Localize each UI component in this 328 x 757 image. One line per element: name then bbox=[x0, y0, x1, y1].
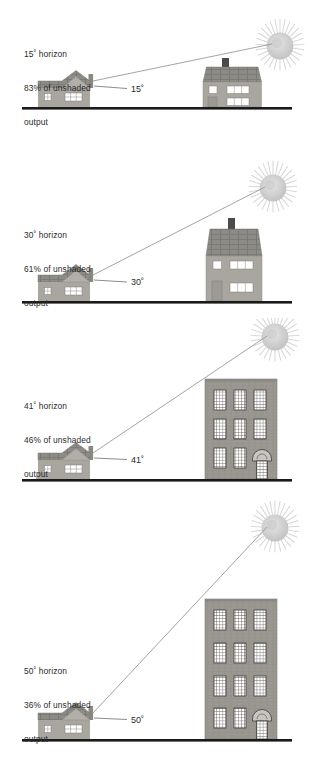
sun-icon bbox=[249, 161, 297, 212]
sun-icon bbox=[251, 318, 299, 361]
angle-leader-41 bbox=[94, 458, 127, 460]
window bbox=[234, 448, 246, 468]
window bbox=[214, 610, 226, 630]
caption-line-2: 36% of unshaded bbox=[24, 700, 91, 711]
caption-line-1: 50˚ horizon bbox=[24, 666, 91, 677]
caption-line-3: output bbox=[24, 298, 91, 309]
four-story-brick-building bbox=[205, 599, 277, 739]
angle-label-41: 41˚ bbox=[131, 455, 144, 465]
chimney bbox=[228, 218, 235, 230]
window bbox=[254, 643, 266, 663]
angle-leader-15 bbox=[94, 86, 127, 89]
caption-15: 15˚ horizon 83% of unshaded output bbox=[24, 27, 91, 150]
window-lower-triple bbox=[227, 98, 249, 106]
caption-line-3: output bbox=[24, 734, 91, 745]
two-story-house-right bbox=[203, 58, 262, 107]
angle-label-15: 15˚ bbox=[131, 84, 144, 94]
roof bbox=[203, 67, 262, 82]
panel-50-degree: 50˚ bbox=[0, 495, 328, 757]
window bbox=[254, 610, 266, 630]
window bbox=[214, 419, 226, 439]
window bbox=[234, 643, 246, 663]
panel-41-degree: 41˚ bbox=[0, 318, 328, 495]
tall-two-story-house-right bbox=[206, 218, 262, 301]
window bbox=[234, 390, 246, 410]
angle-leader-50 bbox=[94, 718, 127, 720]
window bbox=[214, 676, 226, 696]
caption-line-1: 30˚ horizon bbox=[24, 230, 91, 241]
angle-leader-30 bbox=[94, 280, 127, 282]
window-lower-triple bbox=[230, 283, 253, 292]
door bbox=[257, 721, 268, 739]
cornice bbox=[205, 599, 277, 602]
panel-30-degree: 30˚ 30˚ bbox=[0, 155, 328, 318]
window bbox=[214, 643, 226, 663]
caption-30: 30˚ horizon 61% of unshaded output bbox=[24, 208, 91, 331]
angle-label-50: 50˚ bbox=[131, 715, 144, 725]
window-upper-left bbox=[213, 261, 222, 269]
window-upper-left bbox=[209, 86, 217, 94]
window-row-floor-3 bbox=[214, 390, 266, 410]
sun-icon bbox=[251, 501, 299, 552]
window bbox=[234, 610, 246, 630]
door bbox=[257, 461, 268, 479]
three-story-brick-building bbox=[205, 379, 277, 479]
caption-line-2: 83% of unshaded bbox=[24, 83, 91, 94]
window bbox=[254, 390, 266, 410]
caption-41: 41˚ horizon 46% of unshaded output bbox=[24, 379, 91, 502]
window bbox=[214, 448, 226, 468]
window bbox=[234, 708, 246, 728]
window bbox=[234, 419, 246, 439]
cornice bbox=[205, 379, 277, 382]
caption-line-1: 15˚ horizon bbox=[24, 49, 91, 60]
panel-15-degree: 15˚ bbox=[0, 0, 328, 155]
window bbox=[254, 676, 266, 696]
window-row-floor-4 bbox=[214, 610, 266, 630]
caption-line-1: 41˚ horizon bbox=[24, 401, 91, 412]
caption-50: 50˚ horizon 36% of unshaded output bbox=[24, 644, 91, 757]
caption-line-2: 46% of unshaded bbox=[24, 435, 91, 446]
window-row-floor-2 bbox=[214, 419, 266, 439]
window bbox=[234, 676, 246, 696]
window bbox=[214, 390, 226, 410]
roof bbox=[206, 229, 262, 256]
window-upper-triple bbox=[227, 86, 249, 94]
window-row-floor-2 bbox=[214, 676, 266, 696]
door bbox=[208, 97, 217, 107]
window bbox=[254, 419, 266, 439]
sun-icon bbox=[256, 19, 304, 70]
chimney bbox=[222, 58, 229, 67]
caption-line-2: 61% of unshaded bbox=[24, 264, 91, 275]
window bbox=[214, 708, 226, 728]
window-row-floor-3 bbox=[214, 643, 266, 663]
door bbox=[212, 281, 222, 301]
angle-label-30: 30˚ bbox=[131, 277, 144, 287]
window-upper-triple bbox=[230, 261, 253, 269]
caption-line-3: output bbox=[24, 469, 91, 480]
caption-line-3: output bbox=[24, 117, 91, 128]
